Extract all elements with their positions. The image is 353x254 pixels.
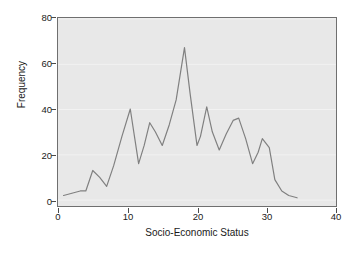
x-tick-label-10: 10 [113, 212, 143, 222]
x-tick-label-40: 40 [321, 212, 351, 222]
x-tick-label-20: 20 [183, 212, 213, 222]
x-tick-label-30: 30 [252, 212, 282, 222]
x-tick-label-0: 0 [43, 212, 73, 222]
x-axis-tick-labels: 0 10 20 30 40 [0, 0, 353, 254]
y-axis-title-wrapper: Frequency [0, 74, 112, 92]
x-axis-title: Socio-Economic Status [57, 227, 337, 238]
frequency-line-chart: 80 60 40 20 0 0 10 20 30 40 [0, 0, 353, 254]
y-axis-title: Frequency [17, 61, 28, 108]
